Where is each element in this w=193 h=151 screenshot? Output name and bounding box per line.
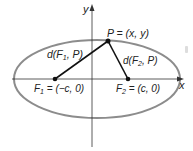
x-axis-label: x	[178, 79, 185, 91]
label-d-f1-p: d(F1, P)	[47, 48, 83, 61]
point-p	[106, 39, 111, 44]
y-axis-arrow-icon	[90, 4, 95, 11]
label-d-f2-p: d(F2, P)	[123, 55, 157, 67]
y-axis-label: y	[82, 3, 90, 15]
point-f2	[126, 77, 131, 82]
label-f2: F2 = (c, 0)	[116, 83, 160, 95]
scan-artifact	[185, 46, 188, 53]
label-f1: F1 = (−c, 0)	[34, 83, 84, 95]
ellipse-diagram: x y P = (x, y) d(F1, P) d(F2, P) F1 = (−…	[0, 0, 193, 151]
point-f1	[53, 77, 58, 82]
label-p: P = (x, y)	[107, 27, 149, 39]
